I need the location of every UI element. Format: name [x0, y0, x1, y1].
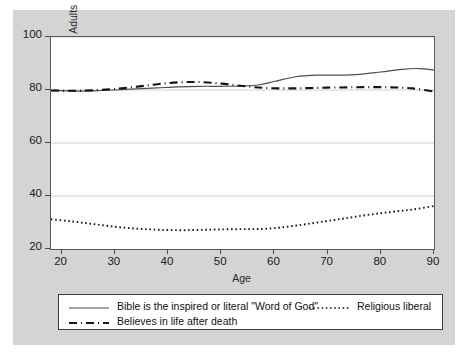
y-tick-mark	[45, 89, 50, 90]
y-tick-mark	[45, 248, 50, 249]
legend-entry-religious-liberal: Religious liberal	[308, 298, 431, 314]
x-tick-mark	[61, 249, 62, 254]
y-tick-label: 40	[8, 187, 42, 199]
x-tick-mark	[273, 249, 274, 254]
x-tick-label: 70	[312, 255, 342, 267]
x-tick-mark	[114, 249, 115, 254]
x-tick-label: 40	[152, 255, 182, 267]
legend-sample-dashed-icon	[68, 315, 110, 327]
chart-figure: Percent of U.S. Adults 20406080100203040…	[13, 10, 455, 345]
y-tick-mark	[45, 36, 50, 37]
series-line-1	[51, 206, 434, 230]
x-tick-label: 30	[99, 255, 129, 267]
x-tick-mark	[167, 249, 168, 254]
y-tick-mark	[45, 142, 50, 143]
legend-label-life-after-death: Believes in life after death	[117, 315, 237, 327]
x-tick-mark	[220, 249, 221, 254]
y-tick-label: 100	[8, 28, 42, 40]
plot-area	[50, 36, 435, 250]
plot-svg	[51, 37, 434, 249]
x-tick-label: 20	[46, 255, 76, 267]
x-tick-label: 50	[205, 255, 235, 267]
x-tick-mark	[433, 249, 434, 254]
legend-sample-dotted-icon	[308, 300, 350, 312]
x-tick-mark	[380, 249, 381, 254]
legend-label-religious-liberal: Religious liberal	[357, 300, 431, 312]
y-tick-mark	[45, 195, 50, 196]
x-tick-mark	[327, 249, 328, 254]
chart-legend: Bible is the inspired or literal "Word o…	[58, 294, 443, 330]
y-tick-label: 60	[8, 134, 42, 146]
legend-entry-bible: Bible is the inspired or literal "Word o…	[68, 298, 318, 314]
legend-label-bible: Bible is the inspired or literal "Word o…	[117, 300, 318, 312]
x-tick-label: 90	[418, 255, 448, 267]
x-tick-label: 80	[365, 255, 395, 267]
x-tick-label: 60	[258, 255, 288, 267]
y-tick-label: 20	[8, 240, 42, 252]
legend-sample-solid-icon	[68, 300, 110, 312]
legend-entry-life-after-death: Believes in life after death	[68, 313, 237, 329]
x-axis-title: Age	[50, 272, 433, 284]
y-tick-label: 80	[8, 81, 42, 93]
